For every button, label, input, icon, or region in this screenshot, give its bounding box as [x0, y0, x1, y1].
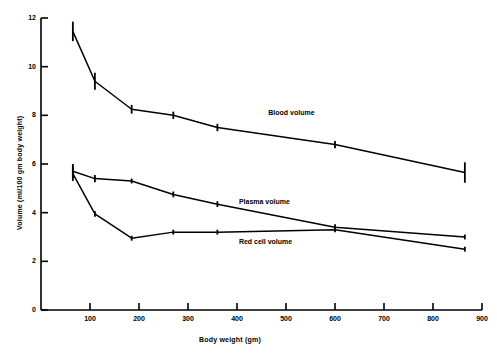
y-tick-label: 0 — [26, 306, 36, 313]
x-axis-title: Body weight (gm) — [199, 336, 261, 343]
chart-series-group — [73, 22, 465, 252]
x-tick-label: 900 — [472, 315, 492, 322]
series-blood — [73, 22, 465, 183]
x-tick-label: 300 — [178, 315, 198, 322]
x-tick-label: 700 — [374, 315, 394, 322]
x-tick-label: 500 — [276, 315, 296, 322]
x-tick-label: 100 — [80, 315, 100, 322]
series-label-plasma: Plasma volume — [239, 198, 290, 205]
y-tick-label: 4 — [26, 209, 36, 216]
y-tick-label: 6 — [26, 160, 36, 167]
series-line — [73, 31, 465, 172]
chart-plot-area — [0, 0, 497, 354]
series-label-redcell: Red cell volume — [239, 238, 292, 245]
x-tick-label: 600 — [325, 315, 345, 322]
x-tick-label: 800 — [423, 315, 443, 322]
y-axis-ticks — [41, 18, 48, 310]
y-tick-label: 12 — [26, 14, 36, 21]
y-axis-title: Volume (ml/100 gm body weight) — [16, 116, 23, 230]
y-tick-label: 8 — [26, 111, 36, 118]
series-label-blood: Blood volume — [268, 109, 314, 116]
x-tick-label: 400 — [227, 315, 247, 322]
chart-axes — [41, 18, 482, 310]
y-tick-label: 2 — [26, 257, 36, 264]
y-tick-label: 10 — [26, 63, 36, 70]
x-axis-ticks — [90, 303, 482, 310]
x-tick-label: 200 — [129, 315, 149, 322]
